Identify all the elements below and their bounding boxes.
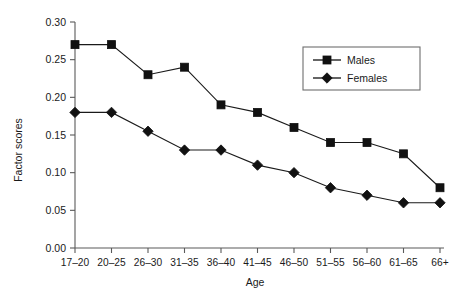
data-point bbox=[181, 63, 189, 71]
data-point bbox=[289, 167, 299, 177]
x-tick-label: 46–50 bbox=[280, 257, 309, 268]
x-tick-label: 41–45 bbox=[243, 257, 272, 268]
y-tick-label: 0.15 bbox=[46, 129, 67, 141]
data-point bbox=[327, 139, 335, 147]
x-tick-label: 20–25 bbox=[97, 257, 126, 268]
data-point bbox=[436, 184, 444, 192]
line-chart: 0.000.050.100.150.200.250.30 17–2020–252… bbox=[0, 0, 464, 298]
x-axis-title: Age bbox=[246, 276, 265, 288]
legend-label: Females bbox=[347, 72, 387, 84]
chart-figure: 0.000.050.100.150.200.250.30 17–2020–252… bbox=[0, 0, 464, 298]
data-point bbox=[398, 198, 408, 208]
y-tick-label: 0.00 bbox=[46, 242, 67, 254]
legend-label: Males bbox=[347, 54, 375, 66]
data-point bbox=[143, 126, 153, 136]
data-point bbox=[71, 41, 79, 49]
x-tick-label: 56–60 bbox=[353, 257, 382, 268]
data-point bbox=[254, 108, 262, 116]
legend-marker-square-icon bbox=[323, 56, 331, 64]
x-tick-label: 66+ bbox=[431, 257, 448, 268]
x-tick-label: 51–55 bbox=[316, 257, 345, 268]
x-axis: 17–2020–2526–3031–3536–4041–4546–5051–55… bbox=[61, 248, 449, 268]
x-tick-label: 26–30 bbox=[134, 257, 163, 268]
series-line bbox=[75, 112, 440, 202]
chart-legend: MalesFemales bbox=[303, 47, 420, 90]
y-axis: 0.000.050.100.150.200.250.30 bbox=[46, 16, 75, 254]
series-females bbox=[70, 107, 445, 208]
data-point bbox=[325, 183, 335, 193]
y-tick-label: 0.05 bbox=[46, 204, 67, 216]
data-point bbox=[144, 71, 152, 79]
data-point bbox=[252, 160, 262, 170]
data-point bbox=[217, 101, 225, 109]
data-point bbox=[362, 190, 372, 200]
y-tick-label: 0.20 bbox=[46, 91, 67, 103]
data-point bbox=[108, 41, 116, 49]
data-point bbox=[435, 198, 445, 208]
x-tick-label: 17–20 bbox=[61, 257, 90, 268]
data-point bbox=[290, 123, 298, 131]
data-point bbox=[106, 107, 116, 117]
y-tick-label: 0.30 bbox=[46, 16, 67, 28]
x-tick-label: 61–65 bbox=[389, 257, 418, 268]
x-tick-label: 31–35 bbox=[170, 257, 199, 268]
y-tick-label: 0.25 bbox=[46, 53, 67, 65]
data-point bbox=[179, 145, 189, 155]
data-point bbox=[400, 150, 408, 158]
data-point bbox=[216, 145, 226, 155]
y-axis-title: Factor scores bbox=[12, 118, 24, 182]
data-point bbox=[70, 107, 80, 117]
data-point bbox=[363, 139, 371, 147]
y-tick-label: 0.10 bbox=[46, 166, 67, 178]
x-tick-label: 36–40 bbox=[207, 257, 236, 268]
